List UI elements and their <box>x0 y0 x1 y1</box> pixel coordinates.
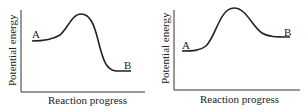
y-axis-label: Potential energy <box>6 14 18 86</box>
point-label-b: B <box>284 26 291 38</box>
point-label-b: B <box>124 59 131 71</box>
chart-left-exothermic: A B Potential energy Reaction progress <box>0 0 154 112</box>
point-label-a: A <box>32 28 40 40</box>
x-axis-label: Reaction progress <box>48 94 127 106</box>
chart-right-endothermic: A B Potential energy Reaction progress <box>154 0 308 112</box>
x-axis-label: Reaction progress <box>200 93 279 105</box>
point-label-a: A <box>182 39 190 51</box>
y-axis-label: Potential energy <box>159 12 171 84</box>
energy-curve <box>32 14 131 71</box>
energy-curve <box>182 8 290 51</box>
